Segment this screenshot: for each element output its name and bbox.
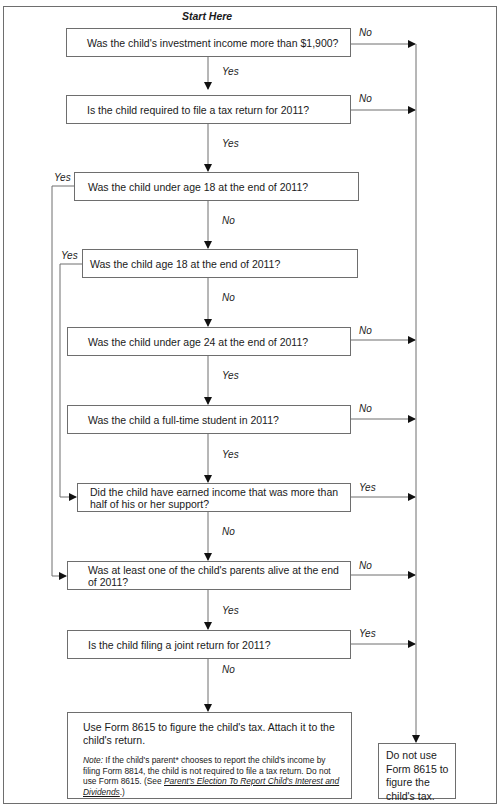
- question-box-under-18: Was the child under age 18 at the end of…: [74, 172, 359, 201]
- branch-label-yes: Yes: [222, 449, 239, 460]
- branch-label-yes: Yes: [359, 482, 376, 493]
- outcome-note: Note: If the child's parent* chooses to …: [83, 755, 343, 797]
- branch-label-no: No: [222, 526, 235, 537]
- branch-label-no: No: [222, 292, 235, 303]
- outcome-text: Do not use Form 8615 to figure the child…: [386, 749, 448, 802]
- branch-label-no: No: [359, 560, 372, 571]
- question-text: Was the child's investment income more t…: [67, 37, 344, 49]
- question-box-joint-return: Is the child filing a joint return for 2…: [67, 630, 351, 659]
- question-box-parents-alive: Was at least one of the child's parents …: [67, 561, 351, 590]
- branch-label-yes: Yes: [222, 370, 239, 381]
- question-text: Was the child under age 18 at the end of…: [75, 181, 314, 193]
- branch-label-yes: Yes: [222, 66, 239, 77]
- branch-label-no: No: [359, 93, 372, 104]
- note-label: Note:: [83, 755, 103, 765]
- question-text: Was the child age 18 at the end of 2011?: [83, 258, 286, 270]
- question-box-full-time-student: Was the child a full-time student in 201…: [67, 405, 351, 434]
- start-here-label: Start Here: [182, 10, 232, 22]
- outcome-use-form-8615: Use Form 8615 to figure the child's tax.…: [67, 712, 352, 799]
- branch-label-no: No: [359, 27, 372, 38]
- question-box-age-18: Was the child age 18 at the end of 2011?: [82, 249, 358, 278]
- question-box-under-24: Was the child under age 24 at the end of…: [67, 327, 351, 356]
- branch-label-no: No: [222, 664, 235, 675]
- question-box-earned-income: Did the child have earned income that wa…: [77, 483, 351, 512]
- outcome-text: Use Form 8615 to figure the child's tax.…: [83, 721, 339, 747]
- question-box-required-to-file: Is the child required to file a tax retu…: [66, 95, 351, 124]
- question-text: Was the child under age 24 at the end of…: [68, 336, 314, 348]
- branch-label-yes: Yes: [222, 138, 239, 149]
- branch-label-no: No: [359, 403, 372, 414]
- question-text: Did the child have earned income that wa…: [78, 486, 350, 510]
- question-text: Is the child filing a joint return for 2…: [68, 639, 277, 651]
- question-text: Is the child required to file a tax retu…: [67, 104, 315, 116]
- question-box-investment-income: Was the child's investment income more t…: [66, 28, 351, 57]
- question-text: Was at least one of the child's parents …: [68, 564, 350, 588]
- branch-label-yes: Yes: [61, 250, 78, 261]
- outcome-do-not-use-form-8615: Do not use Form 8615 to figure the child…: [378, 743, 456, 799]
- branch-label-no: No: [222, 215, 235, 226]
- branch-label-yes: Yes: [222, 605, 239, 616]
- note-end: .): [120, 787, 125, 797]
- branch-label-no: No: [359, 325, 372, 336]
- question-text: Was the child a full-time student in 201…: [68, 414, 285, 426]
- branch-label-yes: Yes: [54, 172, 71, 183]
- branch-label-yes: Yes: [359, 628, 376, 639]
